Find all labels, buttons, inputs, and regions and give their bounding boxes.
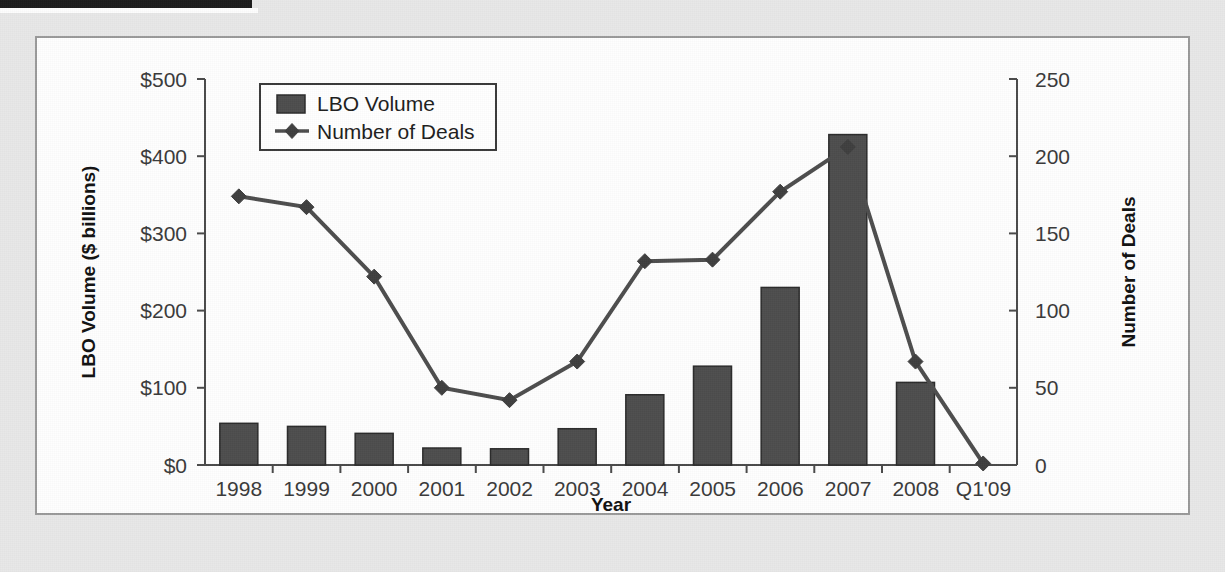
legend-label-number-of-deals: Number of Deals xyxy=(317,120,475,143)
left-tick-label-400: $400 xyxy=(140,145,187,168)
left-tick-label-500: $500 xyxy=(140,68,187,91)
x-category-label-2006: 2006 xyxy=(757,477,804,500)
left-axis-title: LBO Volume ($ billions) xyxy=(78,166,99,379)
deals-line-path xyxy=(239,147,983,464)
bar-2004 xyxy=(626,395,664,465)
x-category-label-2001: 2001 xyxy=(419,477,466,500)
x-category-label-2005: 2005 xyxy=(689,477,736,500)
right-axis-title: Number of Deals xyxy=(1118,197,1139,348)
left-tick-label-0: $0 xyxy=(164,454,187,477)
x-category-label-q1-09: Q1'09 xyxy=(956,477,1011,500)
bar-2003 xyxy=(558,429,596,465)
bar-1998 xyxy=(220,423,258,465)
x-category-label-2007: 2007 xyxy=(825,477,872,500)
right-tick-label-100: 100 xyxy=(1035,299,1070,322)
number-of-deals-line xyxy=(231,139,990,471)
left-tick-label-300: $300 xyxy=(140,222,187,245)
bar-2001 xyxy=(423,448,461,465)
bar-2002 xyxy=(491,449,529,465)
lbo-volume-and-deals-chart: $500 $400 $300 $200 $100 $0 250 200 150 … xyxy=(37,38,1188,513)
right-tick-label-250: 250 xyxy=(1035,68,1070,91)
bar-2006 xyxy=(761,287,799,465)
left-tick-label-100: $100 xyxy=(140,376,187,399)
scanned-page-background: $500 $400 $300 $200 $100 $0 250 200 150 … xyxy=(0,0,1225,572)
x-category-label-2002: 2002 xyxy=(486,477,533,500)
chart-panel: $500 $400 $300 $200 $100 $0 250 200 150 … xyxy=(35,36,1190,515)
bar-2008 xyxy=(897,382,935,465)
x-category-label-1998: 1998 xyxy=(215,477,262,500)
x-category-label-2004: 2004 xyxy=(622,477,669,500)
legend-swatch-lbo-volume xyxy=(277,95,305,113)
left-axis-spine xyxy=(197,79,205,465)
x-category-label-2000: 2000 xyxy=(351,477,398,500)
chart-legend: LBO Volume Number of Deals xyxy=(260,84,496,150)
left-tick-label-200: $200 xyxy=(140,299,187,322)
page-header-black-bar xyxy=(0,0,252,8)
right-axis-spine xyxy=(1009,79,1017,465)
bar-2005 xyxy=(694,366,732,465)
bar-2000 xyxy=(355,433,393,465)
right-tick-label-200: 200 xyxy=(1035,145,1070,168)
x-category-label-2003: 2003 xyxy=(554,477,601,500)
lbo-volume-bars xyxy=(220,135,935,465)
x-category-label-1999: 1999 xyxy=(283,477,330,500)
x-category-label-2008: 2008 xyxy=(892,477,939,500)
page-header-highlight xyxy=(0,8,258,13)
right-tick-label-50: 50 xyxy=(1035,376,1058,399)
legend-label-lbo-volume: LBO Volume xyxy=(317,92,435,115)
right-tick-label-150: 150 xyxy=(1035,222,1070,245)
deals-marker-1998 xyxy=(231,189,246,204)
bar-1999 xyxy=(288,426,326,465)
right-tick-label-0: 0 xyxy=(1035,454,1047,477)
